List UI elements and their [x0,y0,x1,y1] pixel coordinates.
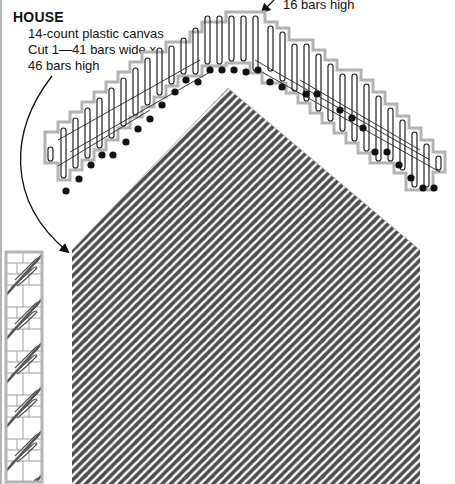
roof-arrow [262,0,274,12]
pattern-artwork [0,0,455,484]
side-strip [6,252,42,482]
